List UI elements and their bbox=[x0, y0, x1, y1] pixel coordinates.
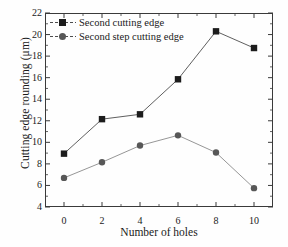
data-point-s1-i0 bbox=[61, 175, 67, 181]
data-point-s1-i5 bbox=[251, 185, 257, 191]
legend-label: Second cutting edge bbox=[76, 17, 164, 29]
data-point-s0-i2 bbox=[137, 111, 143, 117]
x-tick-label: 2 bbox=[90, 210, 114, 222]
data-point-s1-i4 bbox=[213, 149, 219, 155]
data-point-s1-i3 bbox=[175, 132, 181, 138]
x-tick-label: 6 bbox=[166, 210, 190, 222]
data-point-s0-i4 bbox=[213, 28, 219, 34]
data-point-s0-i3 bbox=[175, 76, 181, 82]
legend-label: Second step cutting edge bbox=[76, 31, 184, 43]
legend-item-second-cutting-edge: Second cutting edge bbox=[50, 16, 200, 29]
data-series-group bbox=[61, 28, 257, 191]
data-point-s0-i1 bbox=[99, 116, 105, 122]
x-tick-label: 8 bbox=[204, 210, 228, 222]
legend-item-second-step-cutting-edge: Second step cutting edge bbox=[50, 30, 200, 43]
legend-marker-square-icon bbox=[50, 17, 76, 28]
data-point-s0-i0 bbox=[61, 150, 67, 156]
data-point-s0-i5 bbox=[251, 45, 257, 51]
x-tick-label: 0 bbox=[52, 210, 76, 222]
x-tick-label: 10 bbox=[242, 210, 266, 222]
legend-marker-circle-icon bbox=[50, 31, 76, 42]
data-point-s1-i1 bbox=[99, 159, 105, 165]
x-tick-label: 4 bbox=[128, 210, 152, 222]
y-tick-label: 4 bbox=[18, 202, 42, 212]
x-axis-title: Number of holes bbox=[45, 226, 273, 238]
chart-legend: Second cutting edge Second step cutting … bbox=[50, 16, 200, 44]
chart-figure: 46810121416182022 0246810 Cutting edge r… bbox=[0, 0, 288, 247]
data-point-s1-i2 bbox=[137, 142, 143, 148]
y-axis-title: Cutting edge rounding (μm) bbox=[19, 3, 31, 203]
